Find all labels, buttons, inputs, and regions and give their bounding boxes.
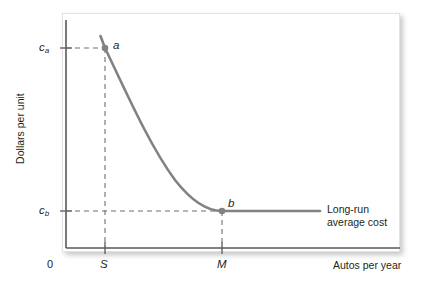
long-run-average-cost-curve <box>101 36 321 211</box>
origin-label: 0 <box>47 258 53 272</box>
curve-callout-line1: Long-run <box>327 203 387 216</box>
curve-callout-label: Long-run average cost <box>327 203 387 229</box>
y-tick-label-cb: cb <box>39 203 49 219</box>
x-tick-label-m: M <box>217 257 227 271</box>
y-tick-label-cb-subscript: b <box>45 209 49 218</box>
data-point-a <box>102 45 109 52</box>
figure-container: Dollars per unit Autos per year 0 S M ca… <box>0 0 431 288</box>
point-label-b: b <box>228 196 234 210</box>
point-label-a: a <box>113 38 119 52</box>
x-axis-title: Autos per year <box>333 259 401 272</box>
y-tick-label-ca-subscript: a <box>45 46 49 55</box>
x-tick-label-s: S <box>100 257 108 271</box>
data-point-b <box>219 208 226 215</box>
y-tick-label-ca: ca <box>39 40 49 56</box>
chart-canvas <box>0 0 431 288</box>
y-axis-title: Dollars per unit <box>14 79 27 179</box>
curve-callout-line2: average cost <box>327 216 387 229</box>
